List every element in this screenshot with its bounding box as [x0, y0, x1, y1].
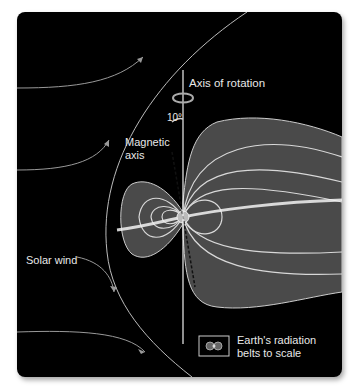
axis-of-rotation-label: Axis of rotation — [189, 77, 265, 90]
solar-wind-label: Solar wind — [26, 254, 77, 267]
magnetic-axis-label-line1: Magnetic — [125, 136, 170, 149]
tilt-angle-label: 10° — [167, 111, 182, 124]
legend-text-line1: Earth's radiation — [237, 334, 316, 347]
legend-text-line2: belts to scale — [237, 347, 301, 360]
diagram-graphic — [17, 12, 342, 377]
magnetosphere-diagram: Axis of rotation 10° Magnetic axis Solar… — [17, 12, 342, 377]
magnetic-axis-label-line2: axis — [125, 149, 145, 162]
